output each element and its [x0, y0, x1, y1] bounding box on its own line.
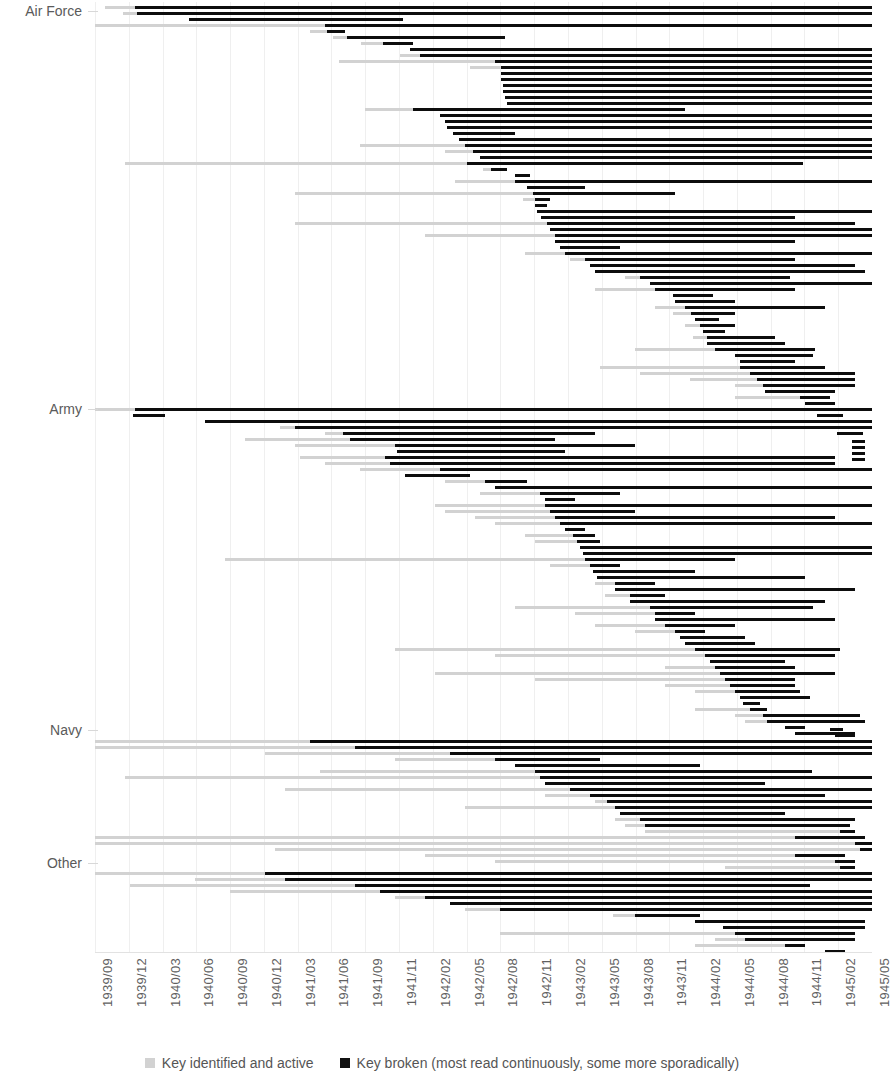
- x-tick-label: 1944/02: [708, 958, 723, 1007]
- bar-key-identified: [613, 914, 635, 917]
- legend-item: Key identified and active: [145, 1055, 314, 1071]
- bar-key-identified: [725, 866, 840, 869]
- bar-key-identified: [130, 884, 355, 887]
- bar-key-broken: [485, 480, 527, 483]
- x-tick-label: 1945/05: [877, 958, 892, 1007]
- bar-key-broken: [735, 354, 813, 357]
- bar-key-identified: [400, 54, 420, 57]
- x-tick-label: 1939/09: [100, 958, 115, 1007]
- bar-key-identified: [325, 462, 390, 465]
- bar-key-identified: [339, 60, 495, 63]
- bar-key-broken: [585, 558, 735, 561]
- bar-key-identified: [695, 944, 785, 947]
- bar-key-broken: [830, 728, 843, 731]
- bar-key-identified: [600, 366, 740, 369]
- bar-key-identified: [295, 192, 533, 195]
- bar-key-broken: [550, 510, 635, 513]
- bar-key-broken: [750, 372, 855, 375]
- bar-key-broken: [685, 642, 755, 645]
- bar-key-identified: [425, 854, 795, 857]
- bar-key-broken: [630, 600, 825, 603]
- bar-key-broken: [695, 920, 865, 923]
- bar-key-broken: [447, 126, 872, 129]
- timeline-plot-area: [95, 2, 872, 952]
- bar-key-broken: [501, 66, 872, 69]
- bar-key-identified: [95, 740, 310, 743]
- x-tick-label: 1940/09: [235, 958, 250, 1007]
- bar-key-identified: [595, 800, 607, 803]
- bar-key-broken: [595, 270, 865, 273]
- bar-key-identified: [195, 878, 285, 881]
- bar-key-identified: [280, 426, 295, 429]
- bar-key-broken: [740, 360, 795, 363]
- category-label-navy: Navy: [50, 722, 82, 738]
- bar-key-broken: [583, 552, 872, 555]
- bar-key-broken: [665, 624, 735, 627]
- x-tick-label: 1939/12: [134, 958, 149, 1007]
- bar-key-broken: [615, 582, 655, 585]
- bar-key-broken: [805, 402, 835, 405]
- legend-swatch-broken-icon: [340, 1058, 350, 1068]
- bar-key-broken: [700, 324, 735, 327]
- bar-key-broken: [852, 452, 865, 455]
- bar-key-identified: [535, 540, 577, 543]
- bar-key-broken: [135, 6, 872, 9]
- bar-key-identified: [735, 714, 763, 717]
- bar-key-broken: [295, 426, 872, 429]
- bar-key-identified: [535, 678, 725, 681]
- bar-key-broken: [495, 60, 872, 63]
- bar-key-broken: [765, 390, 835, 393]
- bar-key-broken: [615, 588, 855, 591]
- bar-key-broken: [545, 782, 765, 785]
- bar-key-broken: [515, 174, 530, 177]
- bar-key-identified: [395, 896, 425, 899]
- bar-key-identified: [95, 408, 135, 411]
- bar-key-broken: [795, 854, 845, 857]
- bar-key-identified: [95, 836, 795, 839]
- x-tick-label: 1944/08: [776, 958, 791, 1007]
- bar-key-identified: [550, 564, 590, 567]
- bar-key-identified: [310, 30, 327, 33]
- bar-key-broken: [852, 446, 865, 449]
- bar-key-identified: [735, 384, 763, 387]
- bar-key-broken: [560, 246, 620, 249]
- bar-key-identified: [395, 758, 495, 761]
- bar-key-broken: [465, 144, 872, 147]
- bar-key-broken: [355, 884, 810, 887]
- category-axis: Air ForceArmyNavyOther: [0, 0, 88, 952]
- bar-key-broken: [397, 450, 565, 453]
- bar-key-broken: [675, 630, 705, 633]
- bar-key-identified: [495, 860, 835, 863]
- category-label-other: Other: [47, 855, 82, 871]
- legend-swatch-identified-icon: [145, 1058, 155, 1068]
- bar-key-broken: [757, 378, 855, 381]
- bar-key-identified: [365, 108, 413, 111]
- bar-key-broken: [750, 708, 767, 711]
- bar-key-broken: [577, 540, 600, 543]
- bar-key-identified: [715, 938, 745, 941]
- bar-key-broken: [740, 366, 825, 369]
- bar-key-broken: [620, 812, 785, 815]
- bar-key-broken: [505, 96, 872, 99]
- bar-key-broken: [723, 926, 865, 929]
- bar-key-broken: [133, 414, 165, 417]
- bar-key-identified: [333, 36, 347, 39]
- bar-key-broken: [355, 746, 872, 749]
- bar-key-broken: [630, 594, 665, 597]
- bar-key-broken: [817, 414, 843, 417]
- bar-key-broken: [503, 84, 872, 87]
- bar-key-broken: [673, 294, 713, 297]
- bar-key-identified: [435, 504, 545, 507]
- bar-key-broken: [395, 444, 635, 447]
- bar-key-broken: [515, 764, 700, 767]
- bar-key-identified: [495, 522, 560, 525]
- bar-key-identified: [105, 6, 135, 9]
- bar-key-identified: [465, 806, 615, 809]
- bar-key-identified: [300, 456, 385, 459]
- x-tick-label: 1944/11: [809, 958, 824, 1006]
- chart-legend: Key identified and activeKey broken (mos…: [0, 1055, 884, 1071]
- category-label-air-force: Air Force: [25, 3, 82, 19]
- bar-key-identified: [245, 438, 350, 441]
- x-tick-label: 1942/08: [505, 958, 520, 1007]
